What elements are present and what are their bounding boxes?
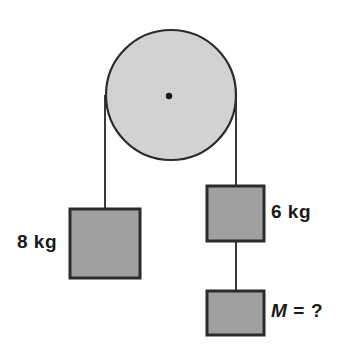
block-right-lower xyxy=(207,291,264,335)
pulley-axle-icon xyxy=(166,93,172,99)
left-mass-label: 8 kg xyxy=(17,232,57,251)
right-mass-label: 6 kg xyxy=(271,202,311,221)
block-right-upper xyxy=(207,186,264,241)
unknown-mass-symbol: M xyxy=(271,300,290,321)
pulley-diagram: 8 kg 6 kg M=? xyxy=(0,0,359,355)
equals-sign: = xyxy=(290,300,308,321)
unknown-mass-label: M=? xyxy=(271,301,323,320)
question-mark: ? xyxy=(308,300,323,321)
block-left xyxy=(70,209,140,278)
